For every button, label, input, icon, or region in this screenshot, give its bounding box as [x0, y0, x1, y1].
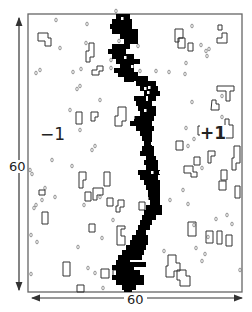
cluster-cell — [112, 29, 138, 34]
cluster-cell — [138, 106, 156, 111]
cluster-cell — [138, 225, 150, 230]
cluster-cell — [144, 141, 152, 146]
cluster-cell — [144, 160, 158, 165]
cluster-cell — [134, 116, 154, 121]
cluster-cell — [112, 44, 130, 49]
cluster-cell — [140, 111, 156, 116]
cluster-hole — [131, 65, 134, 68]
cluster-cell — [134, 96, 146, 101]
cluster-hole — [159, 171, 162, 174]
cluster-hole — [151, 142, 154, 145]
cluster-cell — [144, 210, 162, 215]
cluster-cell — [120, 34, 138, 39]
cluster-cell — [146, 165, 158, 170]
plus-one-region-label: +1 — [200, 125, 226, 142]
cluster-cell — [138, 170, 160, 175]
cluster-cell — [136, 230, 146, 235]
cluster-hole — [151, 171, 154, 174]
cluster-cell — [132, 76, 148, 81]
cluster-hole — [132, 116, 135, 119]
cluster-cell — [150, 200, 160, 205]
cluster-cell — [148, 96, 156, 101]
cluster-cell — [130, 121, 152, 126]
cluster-cell — [136, 126, 154, 131]
ising-domain-figure — [0, 0, 252, 312]
cluster-cell — [116, 270, 140, 275]
cluster-cell — [116, 280, 144, 285]
cluster-cell — [144, 180, 160, 185]
cluster-cell — [144, 91, 160, 96]
cluster-cell — [110, 24, 132, 29]
cluster-cell — [124, 39, 138, 44]
cluster-hole — [121, 17, 124, 20]
cluster-hole — [147, 91, 150, 94]
cluster-cell — [136, 81, 156, 86]
height-label: 60 — [9, 160, 26, 173]
cluster-hole — [144, 87, 147, 90]
cluster-hole — [124, 56, 127, 59]
cluster-cell — [122, 250, 144, 255]
cluster-cell — [126, 245, 146, 250]
cluster-cell — [146, 185, 160, 190]
cluster-cell — [130, 240, 148, 245]
cluster-cell — [136, 101, 152, 106]
cluster-cell — [140, 175, 158, 180]
cluster-cell — [140, 131, 152, 136]
cluster-cell — [142, 146, 154, 151]
cluster-cell — [140, 220, 152, 225]
cluster-cell — [112, 265, 134, 270]
cluster-cell — [132, 235, 148, 240]
cluster-cell — [118, 255, 142, 260]
cluster-hole — [144, 109, 147, 112]
cluster-cell — [146, 205, 162, 210]
width-label: 60 — [124, 293, 147, 306]
minus-one-region-label: −1 — [40, 126, 65, 143]
cluster-cell — [112, 275, 144, 280]
cluster-cell — [108, 49, 126, 54]
cluster-hole — [142, 197, 145, 200]
cluster-cell — [112, 54, 134, 59]
cluster-cell — [148, 190, 160, 195]
cluster-hole — [146, 197, 149, 200]
cluster-cell — [140, 151, 154, 156]
cluster-cell — [142, 136, 152, 141]
cluster-cell — [116, 59, 140, 64]
cluster-cell — [142, 215, 156, 220]
single-spin — [115, 9, 117, 13]
cluster-hole — [148, 86, 151, 89]
cluster-cell — [116, 260, 130, 265]
cluster-cell — [148, 195, 160, 200]
